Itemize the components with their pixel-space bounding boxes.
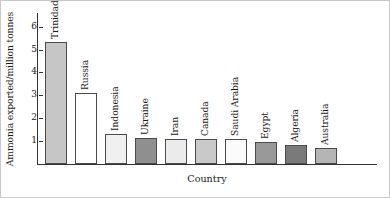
bar-label-australia: Australia: [319, 104, 330, 145]
bar-australia[interactable]: [315, 148, 337, 164]
bar-iran[interactable]: [165, 139, 187, 164]
y-tick-label: 4: [19, 66, 37, 77]
bar-group: Russia: [75, 13, 97, 164]
bar-label-algeria: Algeria: [289, 109, 300, 142]
bar-label-trinidad: Trinidad: [49, 0, 60, 39]
bar-group: Saudi Arabia: [225, 13, 247, 164]
bar-indonesia[interactable]: [105, 134, 127, 164]
bar-group: Canada: [195, 13, 217, 164]
bar-label-ukraine: Ukraine: [139, 98, 150, 135]
bar-label-canada: Canada: [199, 101, 210, 136]
bar-russia[interactable]: [75, 93, 97, 164]
bar-group: Algeria: [285, 13, 307, 164]
bar-label-saudi-arabia: Saudi Arabia: [229, 77, 240, 136]
bar-saudi-arabia[interactable]: [225, 139, 247, 164]
y-tick-label: 2: [19, 112, 37, 123]
bar-trinidad[interactable]: [45, 42, 67, 164]
x-axis-label: Country: [37, 173, 377, 184]
bar-label-indonesia: Indonesia: [109, 87, 120, 132]
bar-group: Australia: [315, 13, 337, 164]
y-tick-label: 1: [19, 135, 37, 146]
bar-chart-figure: Ammonia exported/million tonnes 123456 T…: [0, 0, 390, 198]
bar-algeria[interactable]: [285, 145, 307, 164]
bar-label-russia: Russia: [79, 60, 90, 90]
y-tick-label: 6: [19, 21, 37, 32]
bar-group: Trinidad: [45, 13, 67, 164]
bar-group: Indonesia: [105, 13, 127, 164]
bar-group: Iran: [165, 13, 187, 164]
bar-series: TrinidadRussiaIndonesiaUkraineIranCanada…: [38, 13, 377, 164]
y-tick-label: 3: [19, 89, 37, 100]
bar-ukraine[interactable]: [135, 138, 157, 164]
y-tick-label: 5: [19, 44, 37, 55]
bar-label-egypt: Egypt: [259, 112, 270, 139]
bar-label-iran: Iran: [169, 117, 180, 136]
y-axis-label: Ammonia exported/million tonnes: [3, 9, 17, 169]
bar-egypt[interactable]: [255, 142, 277, 164]
bar-group: Egypt: [255, 13, 277, 164]
bar-canada[interactable]: [195, 139, 217, 164]
bar-group: Ukraine: [135, 13, 157, 164]
plot-area: 123456 TrinidadRussiaIndonesiaUkraineIra…: [37, 13, 377, 165]
x-axis-line: [37, 164, 377, 165]
